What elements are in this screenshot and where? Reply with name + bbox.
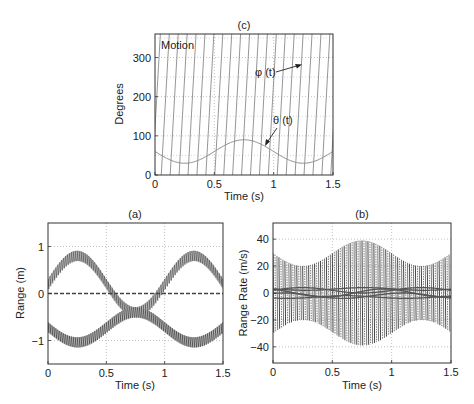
chart-c-annotation-theta: θ (t) (273, 114, 293, 126)
chart-c-annotation-phi: φ (t) (255, 66, 276, 78)
chart-b-title: (b) (355, 208, 368, 220)
y-tick-label: 200 (133, 91, 151, 103)
chart-a-title: (a) (128, 208, 141, 220)
x-tick-label: 0.5 (99, 367, 114, 379)
chart-c-xlabel: Time (s) (224, 190, 264, 202)
chart-a: 00.511.5−101 (a) Time (s) Range (m) (14, 208, 231, 391)
y-tick-label: −1 (31, 335, 44, 347)
y-tick-label: 0 (145, 169, 151, 181)
x-tick-label: 0.5 (325, 366, 340, 378)
chart-c: 00.511.50100200300 (c) Time (s) Degrees … (113, 19, 341, 202)
x-tick-label: 0 (152, 178, 158, 190)
y-tick-label: 100 (133, 130, 151, 142)
x-tick-label: 1.5 (443, 366, 458, 378)
y-tick-label: −20 (250, 314, 269, 326)
x-tick-label: 1 (271, 178, 277, 190)
chart-a-xlabel: Time (s) (115, 379, 155, 391)
chart-a-series (48, 251, 224, 348)
y-tick-label: 40 (257, 233, 269, 245)
y-tick-label: 20 (257, 260, 269, 272)
chart-b: 00.511.5−40−2002040 (b) Time (s) Range R… (237, 208, 459, 391)
chart-c-axes-box (155, 34, 333, 175)
chart-b-series (273, 241, 451, 346)
chart-c-title: (c) (238, 19, 251, 31)
y-tick-label: 0 (38, 288, 44, 300)
x-tick-label: 1 (162, 367, 168, 379)
x-tick-label: 0 (45, 367, 51, 379)
chart-a-ylabel: Range (m) (14, 267, 26, 319)
y-tick-label: −40 (250, 341, 269, 353)
chart-b-xlabel: Time (s) (342, 379, 382, 391)
chart-c-ylabel: Degrees (113, 83, 125, 125)
x-tick-label: 0.5 (207, 178, 222, 190)
y-tick-label: 300 (133, 52, 151, 64)
x-tick-label: 1.5 (325, 178, 340, 190)
chart-b-ylabel: Range Rate (m/s) (237, 250, 249, 337)
x-tick-label: 0 (270, 366, 276, 378)
x-tick-label: 1 (389, 366, 395, 378)
chart-c-grid (155, 34, 333, 175)
y-tick-label: 1 (38, 241, 44, 253)
figure: 00.511.50100200300 (c) Time (s) Degrees … (0, 0, 474, 404)
x-tick-label: 1.5 (215, 367, 230, 379)
y-tick-label: 0 (263, 287, 269, 299)
chart-c-annotation-motion: Motion (161, 39, 194, 51)
chart-c-series (152, 34, 338, 175)
